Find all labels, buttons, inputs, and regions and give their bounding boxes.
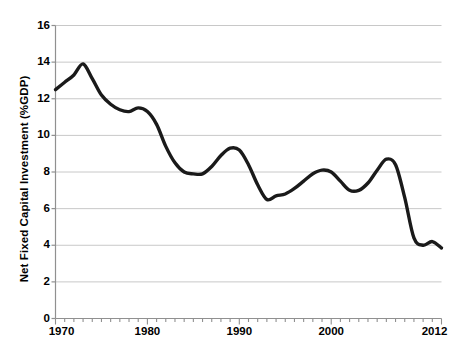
plot-area xyxy=(0,0,466,358)
data-series-group xyxy=(56,64,442,248)
gridlines xyxy=(56,26,442,282)
chart-container: Net Fixed Capital Investment (%GDP) 0246… xyxy=(0,0,466,358)
series-line-0 xyxy=(56,64,442,248)
x-axis-tick-marks xyxy=(56,319,442,325)
